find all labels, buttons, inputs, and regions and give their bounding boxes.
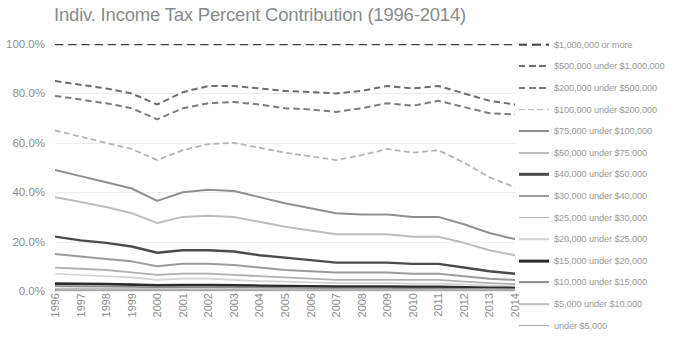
series-line [55, 130, 515, 187]
legend-label: $25,000 under $30,000 [554, 213, 647, 223]
x-axis-tick-label: 2008 [356, 293, 368, 317]
legend-swatch [519, 233, 549, 245]
legend-label: $200,000 under $500,000 [554, 83, 657, 93]
x-axis-tick-label: 2006 [305, 293, 317, 317]
series-line [55, 237, 515, 274]
series-lines [55, 44, 515, 291]
x-axis-tick-label: 2005 [279, 293, 291, 317]
legend-item[interactable]: $75,000 under $100,000 [519, 120, 696, 142]
legend-item[interactable]: $500,000 under $1,000,000 [519, 56, 696, 78]
legend-label: $15,000 under $20,000 [554, 256, 647, 266]
legend-item[interactable]: $100,000 under $200,000 [519, 99, 696, 121]
legend-swatch [519, 168, 549, 180]
legend-swatch [519, 60, 549, 72]
y-axis-tick-label: 40.0% [12, 186, 45, 198]
x-axis-tick-label: 2003 [228, 293, 240, 317]
legend-label: $30,000 under $40,000 [554, 191, 647, 201]
legend-item[interactable]: $25,000 under $30,000 [519, 207, 696, 229]
legend-item[interactable]: $15,000 under $20,000 [519, 250, 696, 272]
x-axis-tick-label: 1999 [126, 293, 138, 317]
legend-item[interactable]: $5,000 under $10,000 [519, 293, 696, 315]
legend-swatch [519, 320, 549, 332]
x-axis-tick-label: 2001 [177, 293, 189, 317]
chart-legend: $1,000,000 or more$500,000 under $1,000,… [519, 34, 696, 336]
legend-swatch [519, 298, 549, 310]
x-axis-tick-label: 2013 [483, 293, 495, 317]
legend-swatch [519, 190, 549, 202]
legend-item[interactable]: under $5,000 [519, 315, 696, 337]
x-axis-tick-label: 2012 [458, 293, 470, 317]
series-line [55, 170, 515, 239]
x-axis-tick-label: 1997 [75, 293, 87, 317]
plot-area [55, 44, 515, 291]
gridline [55, 291, 515, 292]
x-axis-tick-label: 2000 [151, 293, 163, 317]
x-axis-tick-label: 2002 [202, 293, 214, 317]
line-chart: Indiv. Income Tax Percent Contribution (… [0, 0, 696, 348]
legend-swatch [519, 82, 549, 94]
legend-item[interactable]: $40,000 under $50,000 [519, 164, 696, 186]
legend-label: $5,000 under $10,000 [554, 299, 642, 309]
series-line [55, 96, 515, 119]
legend-swatch [519, 104, 549, 116]
x-axis-tick-label: 2004 [253, 293, 265, 317]
legend-label: $500,000 under $1,000,000 [554, 61, 664, 71]
legend-label: $50,000 under $75,000 [554, 148, 647, 158]
x-axis-tick-label: 2007 [330, 293, 342, 317]
x-axis-tick-label: 2010 [407, 293, 419, 317]
legend-item[interactable]: $200,000 under $500,000 [519, 77, 696, 99]
legend-swatch [519, 147, 549, 159]
x-axis-tick-label: 2011 [432, 293, 444, 317]
y-axis: 100.0%80.0%60.0%40.0%20.0%0.0% [0, 44, 50, 291]
legend-swatch [519, 212, 549, 224]
legend-swatch [519, 276, 549, 288]
x-axis: 1996199719981999200020012002200320042005… [55, 293, 515, 343]
legend-label: $10,000 under $15,000 [554, 277, 647, 287]
legend-item[interactable]: $10,000 under $15,000 [519, 272, 696, 294]
y-axis-tick-label: 60.0% [12, 137, 45, 149]
x-axis-tick-label: 2009 [381, 293, 393, 317]
legend-swatch [519, 255, 549, 267]
legend-item[interactable]: $50,000 under $75,000 [519, 142, 696, 164]
y-axis-tick-label: 20.0% [12, 236, 45, 248]
y-axis-tick-label: 80.0% [12, 87, 45, 99]
y-axis-tick-label: 0.0% [19, 285, 45, 297]
x-axis-tick-label: 1998 [100, 293, 112, 317]
legend-label: $40,000 under $50,000 [554, 169, 647, 179]
legend-label: $100,000 under $200,000 [554, 105, 657, 115]
legend-swatch [519, 39, 549, 51]
legend-label: $1,000,000 or more [554, 40, 632, 50]
legend-label: $75,000 under $100,000 [554, 126, 652, 136]
legend-label: under $5,000 [554, 321, 607, 331]
y-axis-tick-label: 100.0% [6, 38, 45, 50]
series-line [55, 81, 515, 104]
legend-label: $20,000 under $25,000 [554, 234, 647, 244]
legend-item[interactable]: $1,000,000 or more [519, 34, 696, 56]
legend-swatch [519, 125, 549, 137]
legend-item[interactable]: $20,000 under $25,000 [519, 228, 696, 250]
chart-title: Indiv. Income Tax Percent Contribution (… [0, 4, 520, 26]
x-axis-tick-label: 1996 [49, 293, 61, 317]
legend-item[interactable]: $30,000 under $40,000 [519, 185, 696, 207]
series-line [55, 290, 515, 291]
